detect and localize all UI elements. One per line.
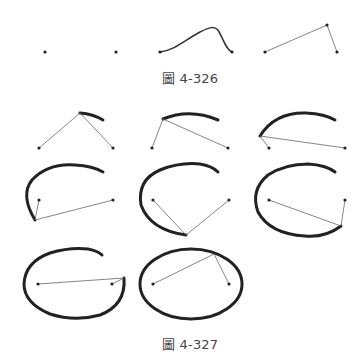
fig-4-327-step-3 <box>260 113 347 150</box>
string-lines <box>152 119 228 148</box>
control-polyline <box>265 25 337 52</box>
ellipse-complete <box>140 249 242 319</box>
focus-point <box>227 282 230 285</box>
focus-point <box>226 146 229 149</box>
string-lines <box>35 200 113 220</box>
point <box>263 50 266 53</box>
string-lines <box>260 136 345 148</box>
focus-point <box>111 198 114 201</box>
fig-4-327-step-1 <box>37 113 114 150</box>
point <box>230 50 233 53</box>
focus-point <box>227 198 230 201</box>
focus-point <box>151 198 154 201</box>
point <box>335 50 338 53</box>
focus-point <box>110 282 113 285</box>
point <box>43 50 46 53</box>
focus-point <box>151 282 154 285</box>
fig-4-326-panel-curve <box>158 28 233 54</box>
ellipse-arc <box>260 113 335 136</box>
focus-point <box>111 146 114 149</box>
bezier-curve <box>160 28 232 52</box>
figure-caption-4-327: 圖 4-327 <box>162 334 218 353</box>
fig-4-326-panel-polyline <box>263 23 338 53</box>
point <box>114 50 117 53</box>
fig-4-327-step-6 <box>256 164 347 236</box>
focus-point <box>343 146 346 149</box>
focus-point <box>150 146 153 149</box>
fig-4-326-panel-points <box>43 50 117 53</box>
point <box>158 50 161 53</box>
string-lines <box>269 200 345 226</box>
fig-4-327-step-4 <box>27 165 115 220</box>
fig-4-327-step-5 <box>140 164 230 235</box>
fig-4-327-step-8 <box>140 249 242 319</box>
focus-point <box>267 198 270 201</box>
focus-point <box>343 198 346 201</box>
ellipse-arc <box>163 114 218 120</box>
ellipse-arc <box>27 165 103 220</box>
figure-caption-4-326: 圖 4-326 <box>162 68 218 87</box>
focus-point <box>37 146 40 149</box>
fig-4-327-step-7 <box>24 249 124 319</box>
string-lines <box>153 254 229 284</box>
focus-point <box>36 282 39 285</box>
fig-4-327-step-2 <box>150 114 229 150</box>
focus-point <box>267 146 270 149</box>
diagram-canvas <box>0 0 363 362</box>
focus-point <box>37 198 40 201</box>
point <box>325 23 328 26</box>
